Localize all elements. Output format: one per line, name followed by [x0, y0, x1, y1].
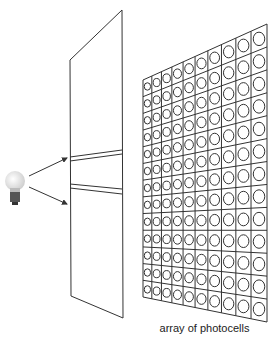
photocell — [173, 161, 181, 170]
photocell — [153, 113, 160, 121]
photocell — [253, 77, 265, 90]
photocell — [163, 235, 170, 244]
photocell — [185, 197, 194, 207]
photocell — [144, 286, 150, 293]
photocell — [197, 235, 206, 246]
photocell — [153, 287, 160, 295]
barrier — [70, 10, 123, 318]
photocell — [185, 292, 194, 302]
photocell — [163, 110, 170, 119]
photocell — [253, 212, 265, 225]
photocell — [144, 235, 150, 242]
photocell — [173, 216, 181, 225]
photocell — [223, 151, 233, 163]
photocell — [210, 214, 220, 225]
photocell — [173, 143, 181, 152]
photocell — [238, 104, 249, 117]
photocell — [153, 270, 160, 278]
photocell — [253, 235, 265, 248]
photocell — [238, 148, 249, 161]
photocell — [238, 191, 249, 204]
photocell — [223, 46, 233, 58]
photocell — [197, 78, 206, 89]
photocell — [210, 93, 220, 104]
photocell — [173, 198, 181, 207]
light-arrow-lower — [29, 187, 67, 204]
photocell — [153, 148, 160, 156]
photocell — [197, 97, 206, 108]
photocell — [210, 194, 220, 205]
photocell — [238, 170, 249, 183]
photocell — [223, 193, 233, 205]
photocell — [210, 52, 220, 63]
photocell — [163, 253, 170, 262]
photocell — [153, 252, 160, 260]
bulb-neck — [10, 188, 20, 192]
photocell — [253, 55, 265, 68]
photocell — [223, 88, 233, 100]
photocell — [253, 257, 265, 270]
photocell — [210, 154, 220, 165]
photocell — [238, 39, 249, 52]
photocell — [144, 252, 150, 259]
photocell — [223, 235, 233, 247]
photocell — [144, 184, 150, 191]
photocell — [197, 58, 206, 69]
photocell — [238, 126, 249, 139]
barrier-outline — [70, 10, 123, 318]
photocell — [210, 113, 220, 124]
photocell — [210, 174, 220, 185]
photocell — [163, 288, 170, 297]
photocell — [197, 195, 206, 206]
photocell — [163, 92, 170, 101]
light-bulb-icon — [5, 171, 25, 205]
photocell — [163, 145, 170, 154]
photocell — [144, 167, 150, 174]
photocell — [185, 254, 194, 264]
photocell-array-caption: array of photocells — [136, 322, 273, 334]
photocell — [197, 215, 206, 226]
photocell — [223, 298, 233, 310]
photocell — [173, 69, 181, 78]
photocell — [185, 235, 194, 245]
photocell — [253, 302, 265, 315]
photocell — [197, 294, 206, 305]
photocell — [185, 140, 194, 150]
photocell — [197, 176, 206, 187]
photocell — [153, 235, 160, 243]
photocell — [144, 100, 150, 107]
photocell — [238, 61, 249, 74]
photocell — [253, 190, 265, 203]
photocell — [144, 218, 150, 225]
photocell — [223, 277, 233, 289]
photocell — [197, 137, 206, 148]
photocell — [163, 74, 170, 83]
photocell — [253, 32, 265, 45]
photocell-array — [143, 24, 267, 322]
photocell — [185, 178, 194, 188]
photocell — [210, 235, 220, 246]
photocell — [144, 150, 150, 157]
photocell — [253, 122, 265, 135]
photocell — [210, 296, 220, 307]
photocell — [185, 273, 194, 283]
photocell — [153, 96, 160, 104]
photocell — [173, 106, 181, 115]
photocell — [163, 217, 170, 226]
photocell — [173, 272, 181, 281]
photocell — [163, 271, 170, 280]
photocell — [153, 200, 160, 208]
photocell — [144, 133, 150, 140]
photocell — [185, 102, 194, 112]
photocell — [210, 133, 220, 144]
photocell — [210, 275, 220, 286]
photocell — [144, 201, 150, 208]
photocell — [185, 64, 194, 74]
photocell — [163, 128, 170, 137]
photocell — [185, 83, 194, 93]
photocell — [173, 253, 181, 262]
photocell — [253, 145, 265, 158]
photocell — [238, 300, 249, 313]
photocell — [153, 165, 160, 173]
bulb-base — [10, 192, 20, 202]
